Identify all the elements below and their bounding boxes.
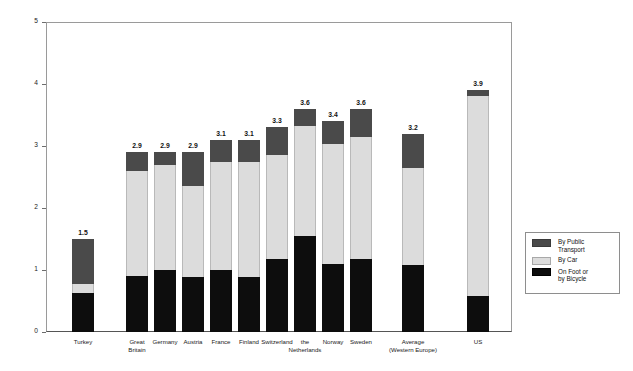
bar-group[interactable]: 3.6Sweden [350, 22, 372, 332]
y-tick-mark [42, 270, 46, 271]
bar-value-label: 3.9 [473, 80, 482, 87]
y-tick-mark [42, 208, 46, 209]
bar-segment-foot[interactable] [126, 276, 148, 332]
y-tick-mark [42, 84, 46, 85]
bar-value-label: 3.2 [408, 124, 417, 131]
bar-group[interactable]: 3.1France [210, 22, 232, 332]
bar-segment-car[interactable] [294, 126, 316, 236]
bar-segment-car[interactable] [182, 186, 204, 277]
bar-value-label: 3.1 [216, 130, 225, 137]
bar-segment-foot[interactable] [294, 236, 316, 332]
bar-group[interactable]: 2.9Germany [154, 22, 176, 332]
bar-segment-foot[interactable] [154, 270, 176, 332]
legend-swatch-transport-icon [532, 239, 551, 247]
x-axis-category-label: US [447, 338, 509, 346]
y-tick-mark [42, 146, 46, 147]
bar-value-label: 3.6 [300, 99, 309, 106]
bar-segment-car[interactable] [350, 137, 372, 259]
bar-segment-car[interactable] [238, 162, 260, 278]
bar-segment-foot[interactable] [402, 265, 424, 332]
bar-segment-car[interactable] [154, 165, 176, 270]
bar-value-label: 1.5 [78, 229, 87, 236]
bar-segment-car[interactable] [467, 96, 489, 296]
bar-segment-transport[interactable] [238, 140, 260, 162]
y-tick-label: 2 [18, 203, 38, 210]
bar-segment-foot[interactable] [350, 259, 372, 332]
legend-item[interactable]: By Public Transport [532, 238, 619, 253]
legend-swatch-car-icon [532, 257, 551, 265]
bar-value-label: 3.1 [244, 130, 253, 137]
bar-group[interactable]: 3.9US [467, 22, 489, 332]
y-tick-label: 0 [18, 327, 38, 334]
bar-segment-foot[interactable] [322, 264, 344, 332]
bar-segment-transport[interactable] [322, 121, 344, 144]
bar-group[interactable]: 2.9Austria [182, 22, 204, 332]
bar-segment-transport[interactable] [350, 109, 372, 137]
y-tick-mark [42, 22, 46, 23]
bar-value-label: 3.4 [328, 111, 337, 118]
bar-segment-car[interactable] [126, 171, 148, 276]
bar-segment-foot[interactable] [467, 296, 489, 332]
bar-segment-foot[interactable] [72, 293, 94, 332]
bar-group[interactable]: 3.1Finland [238, 22, 260, 332]
legend-swatch-foot-icon [532, 268, 551, 276]
bar-segment-car[interactable] [402, 168, 424, 265]
bar-segment-car[interactable] [266, 155, 288, 259]
x-axis-category-label: Average (Western Europe) [382, 338, 444, 355]
bar-segment-transport[interactable] [182, 152, 204, 186]
bar-segment-car[interactable] [322, 144, 344, 264]
bar-segment-car[interactable] [210, 162, 232, 271]
bar-value-label: 3.6 [356, 99, 365, 106]
bar-group[interactable]: 3.2Average (Western Europe) [402, 22, 424, 332]
bar-segment-car[interactable] [72, 284, 94, 293]
bar-group[interactable]: 3.3Switzerland [266, 22, 288, 332]
bar-segment-transport[interactable] [266, 127, 288, 155]
y-tick-mark [42, 332, 46, 333]
bar-segment-foot[interactable] [182, 277, 204, 332]
bar-segment-transport[interactable] [210, 140, 232, 162]
bar-segment-transport[interactable] [154, 152, 176, 164]
bar-group[interactable]: 3.4Norway [322, 22, 344, 332]
legend-label: On Foot or by Bicycle [558, 268, 588, 283]
bar-segment-transport[interactable] [294, 109, 316, 126]
bar-group[interactable]: 3.6the Netherlands [294, 22, 316, 332]
legend-item[interactable]: On Foot or by Bicycle [532, 268, 619, 283]
legend-item[interactable]: By Car [532, 256, 619, 265]
bar-value-label: 3.3 [272, 117, 281, 124]
y-tick-label: 1 [18, 265, 38, 272]
y-tick-label: 3 [18, 141, 38, 148]
bar-segment-foot[interactable] [266, 259, 288, 332]
legend-label: By Car [558, 256, 577, 264]
y-tick-label: 5 [18, 17, 38, 24]
bar-value-label: 2.9 [132, 142, 141, 149]
bar-group[interactable]: 2.9Great Britain [126, 22, 148, 332]
bar-segment-transport[interactable] [402, 134, 424, 168]
bar-segment-transport[interactable] [126, 152, 148, 171]
bar-segment-foot[interactable] [210, 270, 232, 332]
x-axis-category-label: Turkey [52, 338, 114, 346]
chart-container: Number of Trips per Day per Person 01234… [0, 0, 633, 371]
legend-label: By Public Transport [558, 238, 585, 253]
y-tick-label: 4 [18, 79, 38, 86]
bar-segment-transport[interactable] [72, 239, 94, 284]
bar-value-label: 2.9 [160, 142, 169, 149]
bar-value-label: 2.9 [188, 142, 197, 149]
chart-legend: By Public TransportBy CarOn Foot or by B… [525, 232, 620, 294]
bar-segment-transport[interactable] [467, 90, 489, 96]
bar-segment-foot[interactable] [238, 277, 260, 332]
bar-group[interactable]: 1.5Turkey [72, 22, 94, 332]
